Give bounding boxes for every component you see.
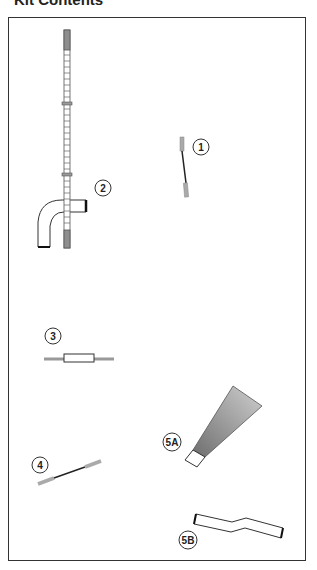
svg-text:5A: 5A	[166, 437, 179, 448]
component-5a-funnel	[185, 386, 262, 467]
label-3: 3	[45, 328, 61, 344]
svg-text:5B: 5B	[182, 535, 195, 546]
components-diagram: 2 1 3 4 5A	[0, 0, 317, 570]
component-1-cable	[180, 137, 189, 197]
svg-text:4: 4	[37, 460, 43, 471]
svg-text:1: 1	[198, 142, 204, 153]
label-1: 1	[193, 139, 209, 155]
svg-text:2: 2	[100, 183, 106, 194]
label-5b: 5B	[179, 531, 197, 549]
svg-text:3: 3	[50, 331, 56, 342]
component-3-sleeve	[44, 354, 114, 362]
label-5a: 5A	[163, 433, 181, 451]
component-5b-hose	[194, 514, 283, 538]
component-2-tube	[38, 30, 86, 248]
label-4: 4	[32, 457, 48, 473]
label-2: 2	[95, 180, 111, 196]
